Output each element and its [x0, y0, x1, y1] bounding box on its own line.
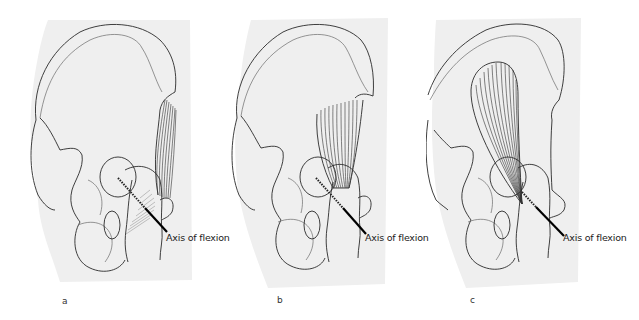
axis-of-flexion-label-c: Axis of flexion [563, 232, 627, 243]
hip-diagram-b [213, 0, 426, 320]
axis-of-flexion-label-b: Axis of flexion [365, 232, 429, 243]
hip-diagram-c [426, 0, 639, 320]
panel-b: Axis of flexion b [213, 0, 426, 320]
panel-letter-c: c [470, 295, 475, 305]
panel-a: Axis of flexion a [0, 0, 213, 320]
panel-c: Axis of flexion c [426, 0, 639, 320]
panel-letter-b: b [277, 295, 283, 305]
hip-diagram-a [0, 0, 213, 320]
panel-letter-a: a [62, 296, 68, 306]
